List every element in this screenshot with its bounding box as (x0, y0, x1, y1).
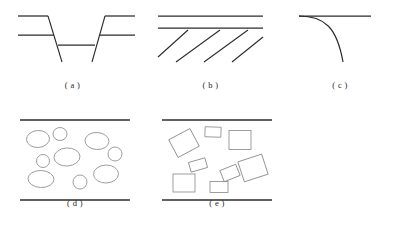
caption-a: ( a ) (0, 80, 145, 90)
rounded-clast (28, 170, 55, 188)
panel-a-faults (48, 16, 105, 62)
panel-b (148, 2, 273, 78)
normal-fault-right (92, 16, 105, 62)
shear-fracture-1 (158, 30, 188, 57)
panel-e-boundaries (162, 120, 272, 200)
rounded-clast (37, 155, 50, 168)
drag-fold-curve (299, 16, 343, 62)
panel-c (285, 2, 395, 78)
panel-d-clasts (26, 128, 122, 190)
panel-e-graphic (152, 108, 282, 208)
rounded-clast (26, 130, 50, 149)
angular-clast (173, 174, 195, 192)
panel-e-clasts (169, 127, 268, 193)
panel-b-fractures (158, 30, 263, 62)
angular-clast (169, 129, 200, 158)
panel-a (0, 2, 145, 78)
rounded-clast (93, 165, 119, 184)
caption-e: ( e ) (152, 198, 282, 208)
panel-c-graphic (285, 2, 395, 78)
rounded-clast (54, 147, 81, 166)
angular-clast (210, 182, 228, 193)
caption-d: ( d ) (10, 198, 140, 208)
panel-a-graphic (0, 2, 145, 78)
caption-c: ( c ) (285, 80, 395, 90)
angular-clast (238, 154, 268, 182)
caption-b: ( b ) (148, 80, 273, 90)
angular-clast (220, 164, 240, 181)
angular-clast (229, 131, 251, 150)
structural-geology-figure: ( a ) ( b ) ( c ) (0, 0, 399, 226)
panel-b-graphic (148, 2, 273, 78)
rounded-clast (108, 147, 122, 161)
angular-clast (188, 158, 207, 172)
panel-e (152, 108, 282, 208)
panel-a-beds (18, 16, 135, 45)
shear-fracture-4 (232, 37, 263, 62)
panel-d-graphic (10, 108, 140, 208)
rounded-clast (73, 175, 87, 189)
panel-b-beds (158, 16, 263, 28)
normal-fault-left (48, 16, 62, 62)
panel-d (10, 108, 140, 208)
rounded-clast (53, 128, 67, 141)
rounded-clast (85, 132, 110, 150)
angular-clast (205, 127, 221, 138)
shear-fracture-3 (204, 30, 248, 62)
